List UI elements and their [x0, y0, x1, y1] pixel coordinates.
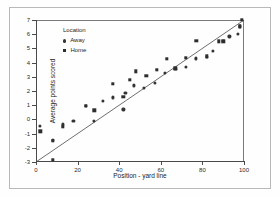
- y-axis-title: Average points scored: [49, 31, 56, 151]
- legend-label-away: Away: [70, 36, 85, 45]
- data-point-home: [61, 125, 64, 128]
- data-point-home: [51, 158, 54, 161]
- y-tick-label: -1: [25, 131, 30, 137]
- data-point-home: [145, 74, 148, 77]
- legend: Location Away Home: [63, 26, 86, 55]
- y-tick-label: 2: [27, 88, 30, 94]
- legend-item-home: Home: [63, 46, 86, 55]
- y-tick-label: 7: [27, 17, 30, 23]
- data-point-home: [93, 108, 96, 111]
- y-tick-label: 0: [27, 116, 30, 122]
- y-tick-label: 3: [27, 74, 30, 80]
- data-point-home: [240, 18, 243, 21]
- data-point-home: [165, 57, 168, 60]
- y-tick-label: -2: [25, 145, 30, 151]
- legend-marker-away-icon: [63, 39, 66, 42]
- data-point-home: [174, 67, 177, 70]
- data-point-home: [155, 68, 158, 71]
- data-point-home: [205, 55, 208, 58]
- y-tick-label: -3: [25, 159, 30, 165]
- data-point-home: [128, 78, 131, 81]
- data-point-home: [111, 82, 114, 85]
- data-point-home: [221, 40, 224, 43]
- figure-container: -3-2-101234567 020406080100 Location Awa…: [0, 0, 280, 197]
- data-point-home: [122, 95, 125, 98]
- x-axis-title: Position - yard line: [36, 172, 244, 179]
- data-point-home: [84, 104, 87, 107]
- x-tick: [244, 161, 245, 165]
- data-point-home: [38, 130, 41, 133]
- y-tick-label: 1: [27, 102, 30, 108]
- data-point-home: [217, 40, 220, 43]
- legend-marker-home-icon: [63, 49, 66, 52]
- y-tick-label: 4: [27, 60, 30, 66]
- legend-title: Location: [63, 26, 86, 35]
- plot-area: -3-2-101234567 020406080100 Location Awa…: [36, 20, 244, 162]
- data-point-home: [184, 56, 187, 59]
- legend-item-away: Away: [63, 36, 86, 45]
- data-point-home: [194, 39, 197, 42]
- y-tick-label: 6: [27, 31, 30, 37]
- legend-label-home: Home: [70, 46, 86, 55]
- data-point-home: [134, 69, 137, 72]
- data-point-home: [238, 25, 241, 28]
- y-tick-label: 5: [27, 45, 30, 51]
